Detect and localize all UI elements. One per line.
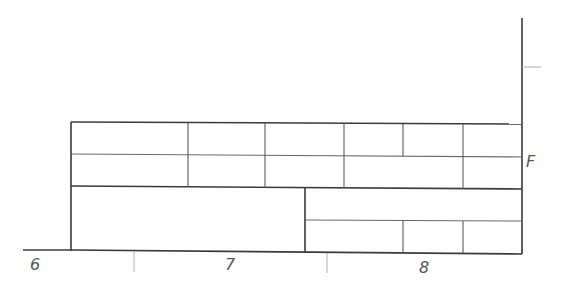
axis-label-8: 8 — [419, 258, 429, 277]
band-divider — [71, 186, 522, 189]
axis-label-6: 6 — [30, 255, 40, 274]
axis-label-7: 7 — [225, 255, 236, 274]
axis-label-F: F — [526, 152, 536, 171]
bottom-edge — [71, 250, 522, 254]
elevation-drawing: 6 7 8 F — [0, 0, 566, 291]
upper-band-top — [71, 122, 522, 124]
upper-band-mid — [71, 154, 522, 157]
lower-right-mid — [305, 220, 522, 221]
